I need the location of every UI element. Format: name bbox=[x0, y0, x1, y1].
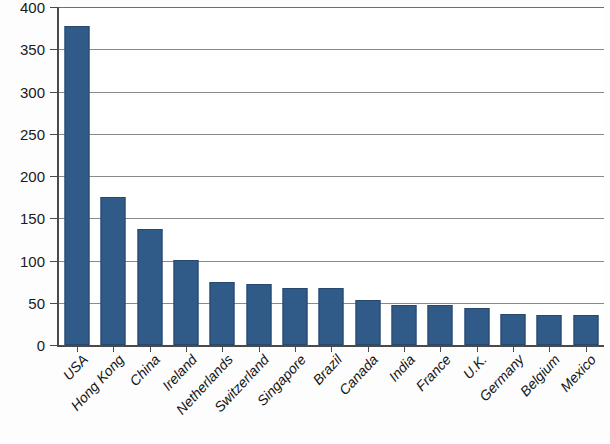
bar-slot bbox=[422, 7, 458, 345]
bar[interactable] bbox=[210, 282, 235, 345]
bar-slot bbox=[59, 7, 95, 345]
y-axis-tick-mark bbox=[50, 345, 57, 346]
bar[interactable] bbox=[428, 305, 453, 345]
bar[interactable] bbox=[355, 300, 380, 345]
y-axis-tick-label: 350 bbox=[20, 42, 45, 57]
bar[interactable] bbox=[137, 229, 162, 345]
bar[interactable] bbox=[392, 305, 417, 345]
y-axis-tick-mark bbox=[50, 7, 57, 8]
bar-slot bbox=[350, 7, 386, 345]
x-axis-tick-labels: USAHong KongChinaIrelandNetherlandsSwitz… bbox=[57, 352, 602, 442]
x-axis-tick-label: India bbox=[386, 352, 417, 384]
y-axis-tick-label: 100 bbox=[20, 253, 45, 268]
y-axis-tick-label: 250 bbox=[20, 126, 45, 141]
y-axis-tick-mark bbox=[50, 176, 57, 177]
y-axis-tick-label: 50 bbox=[28, 295, 45, 310]
bar-slot bbox=[168, 7, 204, 345]
bar[interactable] bbox=[283, 288, 308, 345]
bar-slot bbox=[531, 7, 567, 345]
y-axis-tick-mark bbox=[50, 92, 57, 93]
bar-chart-figure: 050100150200250300350400 USAHong KongChi… bbox=[0, 0, 610, 444]
y-axis-tick-mark bbox=[50, 261, 57, 262]
bar-slot bbox=[568, 7, 604, 345]
bar-slot bbox=[495, 7, 531, 345]
bar[interactable] bbox=[246, 284, 271, 345]
y-axis-tick-label: 150 bbox=[20, 211, 45, 226]
bar-slot bbox=[132, 7, 168, 345]
y-axis-tick-labels: 050100150200250300350400 bbox=[0, 7, 45, 345]
bar[interactable] bbox=[101, 197, 126, 345]
y-axis-tick-mark bbox=[50, 218, 57, 219]
x-axis-tick-label: China bbox=[127, 352, 162, 388]
bar-slot bbox=[386, 7, 422, 345]
x-axis-tick-label: Mexico bbox=[558, 352, 598, 394]
y-axis-tick-mark bbox=[50, 303, 57, 304]
bar-slot bbox=[241, 7, 277, 345]
y-axis-tick-label: 400 bbox=[20, 0, 45, 15]
bar-slot bbox=[95, 7, 131, 345]
y-axis-tick-mark bbox=[50, 49, 57, 50]
x-axis-tick-label: Canada bbox=[337, 352, 381, 397]
plot-area bbox=[57, 7, 604, 347]
bar[interactable] bbox=[573, 315, 598, 345]
bar[interactable] bbox=[319, 288, 344, 345]
bar[interactable] bbox=[501, 314, 526, 345]
bar-slot bbox=[277, 7, 313, 345]
y-axis-tick-label: 0 bbox=[37, 338, 45, 353]
bar[interactable] bbox=[537, 315, 562, 345]
x-axis-tick-label: U.K. bbox=[461, 352, 490, 381]
bar[interactable] bbox=[174, 260, 199, 345]
bar[interactable] bbox=[464, 308, 489, 345]
y-axis-tick-mark bbox=[50, 134, 57, 135]
y-axis-tick-label: 200 bbox=[20, 169, 45, 184]
bar-slot bbox=[313, 7, 349, 345]
bar-slot bbox=[204, 7, 240, 345]
bar-slot bbox=[459, 7, 495, 345]
bar[interactable] bbox=[65, 26, 90, 345]
bars-layer bbox=[59, 7, 604, 345]
x-axis-tick-label: USA bbox=[60, 352, 90, 383]
y-axis-tick-label: 300 bbox=[20, 84, 45, 99]
x-axis-tick-label: France bbox=[413, 352, 453, 393]
